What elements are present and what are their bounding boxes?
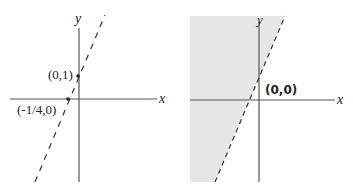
right-y-label: y (255, 12, 263, 27)
point-0-1 (76, 74, 80, 78)
left-y-label: y (73, 11, 82, 26)
point-label-0-1: (0,1) (48, 67, 73, 82)
right-graph: y x (0,0) (190, 12, 344, 182)
test-point-label: (0,0) (265, 83, 297, 97)
right-x-label: x (336, 92, 344, 107)
shaded-region (190, 16, 285, 182)
point-neg-quarter-0 (66, 97, 70, 101)
left-x-label: x (158, 91, 166, 106)
point-label-neg-quarter-0: (-1/4,0) (17, 102, 56, 117)
diagram-canvas: y x (0,1) (-1/4,0) y x (0,0) (0, 0, 353, 190)
left-graph: y x (0,1) (-1/4,0) (10, 11, 166, 182)
